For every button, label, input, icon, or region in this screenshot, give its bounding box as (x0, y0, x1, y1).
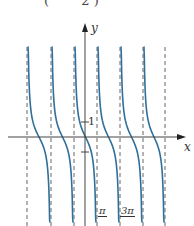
curve-branch (52, 47, 74, 222)
y-axis-label: y (91, 22, 98, 34)
x-tick-label-3pi-half: 3π (120, 206, 135, 217)
curve-branches (28, 47, 165, 222)
curve-branch (144, 47, 165, 222)
curve-branch (121, 47, 143, 222)
pi-half-numerator: π (98, 206, 107, 217)
y-axis-arrow-icon (82, 23, 88, 32)
three-pi-half-numerator: 3π (120, 206, 135, 217)
x-axis-label: x (184, 141, 191, 153)
curve-branch (28, 47, 51, 222)
x-tick-label-pi-half: π (98, 206, 107, 217)
y-tick-label-1: 1 (88, 116, 95, 127)
curve-branch (98, 47, 120, 222)
